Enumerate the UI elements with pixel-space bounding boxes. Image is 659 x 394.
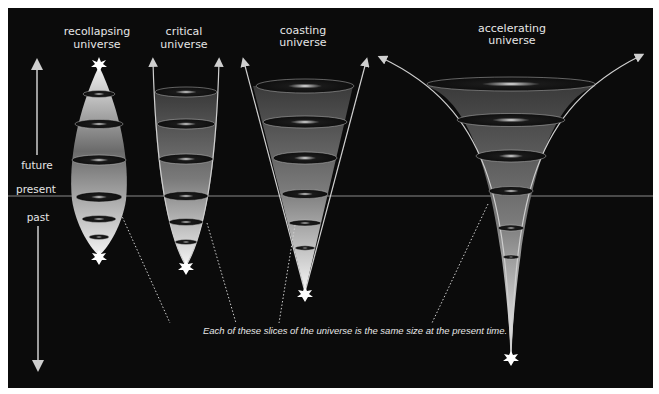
big-bang-star-icon [503,351,519,366]
recollapsing-title: recollapsing [64,25,130,38]
coasting-universe [244,62,366,302]
present-label: present [16,183,56,195]
accelerating-title-line2: universe [488,34,536,47]
caption: Each of these slices of the universe is … [203,325,507,336]
big-bang-star-icon [91,250,107,265]
future-label: future [21,159,53,171]
critical-title-line2: universe [160,38,208,51]
critical-universe [153,62,219,275]
universe-expansion-diagram: recollapsing universe critical universe … [0,0,659,394]
accelerating-universe [382,56,640,366]
big-bang-star-icon [297,287,313,302]
big-crunch-star-icon [91,57,107,72]
big-bang-star-icon [178,260,194,275]
past-label: past [27,211,50,223]
critical-title: critical [166,25,203,38]
recollapsing-universe [71,57,127,265]
coasting-title-line2: universe [279,36,327,49]
recollapsing-title-line2: universe [73,38,121,51]
